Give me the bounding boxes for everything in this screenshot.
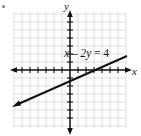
coordinate-plane xyxy=(0,0,141,136)
y-axis xyxy=(67,10,73,135)
equation-term-x: x xyxy=(64,47,69,59)
equation-term-2y: 2y xyxy=(80,47,91,59)
equation-annotation: x–2y=4 xyxy=(64,48,109,60)
equation-equals-sign: = xyxy=(94,47,101,59)
y-axis-label: y xyxy=(64,1,69,12)
equation-operator-minus: – xyxy=(72,47,78,59)
x-axis xyxy=(10,67,132,73)
graph-figure: y x x–2y=4 xyxy=(0,0,141,136)
equation-rhs-value: 4 xyxy=(103,47,109,59)
x-axis-label: x xyxy=(132,66,137,77)
